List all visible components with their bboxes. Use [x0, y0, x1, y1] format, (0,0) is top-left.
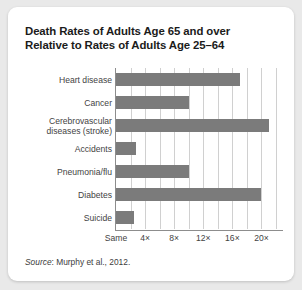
x-tick-label: 12× — [196, 233, 211, 243]
x-axis-tick-labels: Same4×8×12×16×20× — [116, 233, 286, 247]
bar — [116, 165, 189, 178]
source-note: Source: Murphy et al., 2012. — [25, 257, 130, 267]
chart-title-line-2: Relative to Rates of Adults Age 25–64 — [25, 39, 280, 53]
bar — [116, 96, 189, 109]
category-label-line: Cancer — [20, 98, 112, 108]
x-tick-label: 8× — [169, 233, 179, 243]
category-label: Pneumonia/flu — [20, 167, 112, 177]
x-tick-label: 4× — [140, 233, 150, 243]
x-tick-label: 16× — [225, 233, 240, 243]
bar-row — [116, 211, 276, 224]
chart-title-line-1: Death Rates of Adults Age 65 and over — [25, 25, 280, 39]
bar — [116, 211, 134, 224]
category-label-line: Heart disease — [20, 75, 112, 85]
category-label-line: Cerebrovascular — [20, 116, 112, 126]
bar-row — [116, 96, 276, 109]
category-label-line: Diabetes — [20, 190, 112, 200]
bar — [116, 73, 240, 86]
category-label: Accidents — [20, 144, 112, 154]
bar-row — [116, 165, 276, 178]
category-label: Diabetes — [20, 190, 112, 200]
x-tick-label: 20× — [254, 233, 269, 243]
bar-row — [116, 73, 276, 86]
bar — [116, 119, 269, 132]
source-label: Source — [25, 257, 52, 267]
category-label: Suicide — [20, 213, 112, 223]
category-label-line: Suicide — [20, 213, 112, 223]
bar-row — [116, 188, 276, 201]
category-axis-labels: Heart diseaseCancerCerebrovasculardiseas… — [20, 68, 112, 229]
chart-title: Death Rates of Adults Age 65 and over Re… — [25, 25, 280, 52]
source-citation: : Murphy et al., 2012. — [52, 257, 131, 267]
chart-card: Death Rates of Adults Age 65 and over Re… — [8, 7, 294, 281]
bar-row — [116, 142, 276, 155]
category-label: Cerebrovasculardiseases (stroke) — [20, 116, 112, 136]
category-label-line: Accidents — [20, 144, 112, 154]
category-label: Heart disease — [20, 75, 112, 85]
plot-area — [116, 68, 276, 229]
x-tick-label: Same — [105, 233, 127, 243]
category-label: Cancer — [20, 98, 112, 108]
bar — [116, 142, 136, 155]
gridline — [276, 68, 277, 229]
bar — [116, 188, 261, 201]
category-label-line: Pneumonia/flu — [20, 167, 112, 177]
x-axis-line — [115, 230, 283, 231]
bar-row — [116, 119, 276, 132]
category-label-line: diseases (stroke) — [20, 126, 112, 136]
